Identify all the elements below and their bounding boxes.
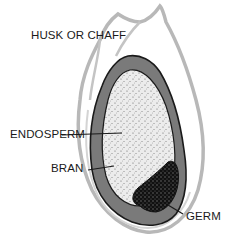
endosperm-label: ENDOSPERM [10, 128, 85, 140]
grain-kernel-diagram: HUSK OR CHAFF ENDOSPERM BRAN GERM [0, 0, 238, 247]
bran-label: BRAN [51, 162, 83, 174]
husk-label: HUSK OR CHAFF [31, 29, 126, 41]
germ-label: GERM [186, 210, 221, 222]
